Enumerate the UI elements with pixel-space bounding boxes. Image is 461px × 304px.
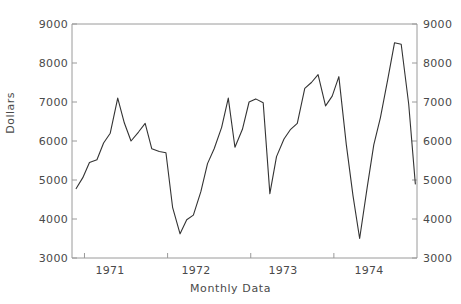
y-tick-label: 5000 <box>30 174 68 187</box>
y-tick-label: 9000 <box>30 18 68 31</box>
x-tick-label: 1972 <box>181 264 210 277</box>
y-tick-label-right: 8000 <box>423 57 461 70</box>
y-tick-label-right: 9000 <box>423 18 461 31</box>
y-tick-marks <box>72 24 417 258</box>
y-tick-label: 3000 <box>30 252 68 265</box>
y-tick-label-right: 6000 <box>423 135 461 148</box>
y-tick-label-right: 4000 <box>423 213 461 226</box>
y-tick-label-right: 7000 <box>423 96 461 109</box>
x-axis-title: Monthly Data <box>0 282 461 295</box>
y-tick-label-right: 3000 <box>423 252 461 265</box>
y-axis-title: Dollars <box>4 92 28 134</box>
y-tick-label: 4000 <box>30 213 68 226</box>
y-axis-ticks-right: 9000 8000 7000 6000 5000 4000 3000 <box>423 0 461 304</box>
x-tick-marks <box>84 253 333 258</box>
x-tick-label: 1973 <box>268 264 297 277</box>
plot-area <box>0 0 461 304</box>
axis-frame <box>72 24 417 258</box>
line-chart: Dollars 9000 8000 7000 6000 5000 4000 30… <box>0 0 461 304</box>
y-tick-label-right: 5000 <box>423 174 461 187</box>
x-tick-label: 1971 <box>95 264 124 277</box>
x-tick-label: 1974 <box>354 264 383 277</box>
y-axis-ticks-left: 9000 8000 7000 6000 5000 4000 3000 <box>26 0 68 304</box>
y-tick-label: 6000 <box>30 135 68 148</box>
data-series-line <box>76 43 415 239</box>
y-tick-label: 8000 <box>30 57 68 70</box>
y-tick-label: 7000 <box>30 96 68 109</box>
